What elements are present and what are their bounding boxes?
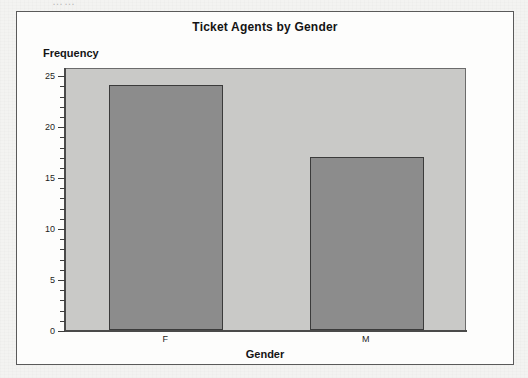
y-tick-label: 25: [35, 71, 55, 81]
y-tick-label: 0: [35, 326, 55, 336]
chart-title: Ticket Agents by Gender: [17, 20, 513, 34]
bars-layer: [66, 69, 465, 330]
plot-area: [65, 68, 466, 331]
chart-screenshot: …… Ticket Agents by Gender Frequency 051…: [0, 0, 528, 378]
y-axis-title: Frequency: [43, 47, 99, 59]
y-tick-minor: [60, 148, 65, 149]
y-tick-minor: [60, 198, 65, 199]
y-tick-minor: [60, 300, 65, 301]
y-tick-minor: [60, 158, 65, 159]
y-tick-minor: [60, 321, 65, 322]
y-tick-label: 20: [35, 122, 55, 132]
y-tick-major: [58, 229, 65, 230]
bar-m: [310, 157, 424, 330]
y-tick-label: 5: [35, 275, 55, 285]
y-tick-minor: [60, 107, 65, 108]
y-tick-minor: [60, 260, 65, 261]
y-tick-label: 15: [35, 173, 55, 183]
y-tick-label: 10: [35, 224, 55, 234]
y-tick-minor: [60, 209, 65, 210]
y-tick-minor: [60, 311, 65, 312]
y-tick-minor: [60, 188, 65, 189]
y-tick-minor: [60, 249, 65, 250]
y-tick-minor: [60, 219, 65, 220]
y-tick-minor: [60, 290, 65, 291]
y-tick-minor: [60, 239, 65, 240]
x-axis-title: Gender: [17, 348, 513, 360]
x-axis-line: [64, 330, 467, 332]
y-tick-minor: [60, 168, 65, 169]
y-tick-major: [58, 178, 65, 179]
figure-frame: Ticket Agents by Gender Frequency 051015…: [16, 11, 514, 365]
cropped-text-above-figure: ……: [52, 0, 172, 5]
y-tick-major: [58, 280, 65, 281]
y-tick-minor: [60, 97, 65, 98]
bar-f: [109, 85, 223, 330]
y-tick-minor: [60, 86, 65, 87]
y-tick-major: [58, 127, 65, 128]
y-tick-major: [58, 76, 65, 77]
x-tick-label-m: M: [351, 334, 381, 344]
x-tick-label-f: F: [150, 334, 180, 344]
y-tick-minor: [60, 117, 65, 118]
y-tick-major: [58, 331, 65, 332]
y-tick-minor: [60, 270, 65, 271]
y-tick-minor: [60, 137, 65, 138]
